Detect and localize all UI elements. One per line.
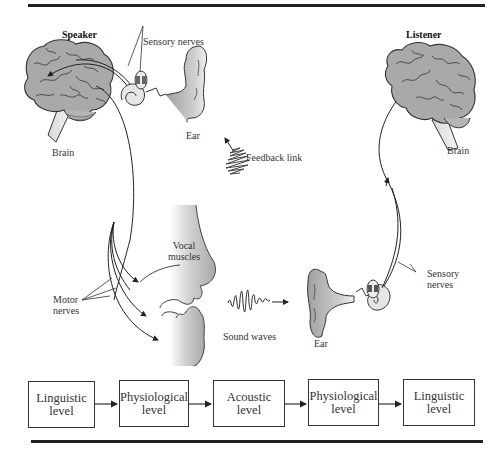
listener-label: Listener: [406, 29, 442, 40]
speaker-face-icon: [160, 205, 215, 366]
vocal-muscles-line2: muscles: [164, 251, 204, 262]
vocal-muscles-label: Vocal muscles: [164, 240, 204, 262]
level-box-physiological-speaker: Physiologicallevel: [119, 380, 189, 427]
listener-brain-label: Brain: [447, 145, 469, 156]
level-line2: level: [414, 403, 465, 416]
listener-sensory-nerves-line2: nerves: [427, 279, 459, 290]
level-line2: level: [120, 404, 188, 417]
listener-ear-label: Ear: [314, 338, 328, 349]
speaker-label: Speaker: [62, 29, 97, 40]
level-line1: Physiological: [120, 391, 188, 404]
level-box-acoustic: Acousticlevel: [213, 380, 285, 427]
level-box-physiological-listener: Physiologicallevel: [308, 379, 379, 426]
listener-sensory-nerves-line1: Sensory: [427, 268, 459, 279]
motor-nerves-label: Motor nerves: [53, 294, 79, 316]
level-line2: level: [227, 404, 271, 417]
level-line2: level: [309, 403, 377, 416]
motor-nerves-line2: nerves: [53, 305, 79, 316]
listener-sensory-nerves-label: Sensory nerves: [427, 268, 459, 290]
motor-nerves-line1: Motor: [53, 294, 79, 305]
speaker-sensory-nerves-label: Sensory nerves: [143, 36, 204, 47]
level-line1: Acoustic: [227, 391, 271, 404]
speaker-brain-icon: [25, 40, 114, 142]
level-line1: Linguistic: [36, 392, 87, 405]
sound-waves-label: Sound waves: [223, 331, 276, 342]
level-line2: level: [36, 405, 87, 418]
level-box-linguistic-speaker: Linguisticlevel: [28, 381, 95, 428]
level-box-linguistic-listener: Linguisticlevel: [403, 379, 475, 426]
speaker-ear-icon: [166, 46, 207, 122]
feedback-link-label: Feedback link: [246, 152, 302, 163]
speaker-brain-label: Brain: [52, 147, 74, 158]
speaker-ear-label: Ear: [186, 130, 200, 141]
level-line1: Physiological: [309, 390, 377, 403]
level-line1: Linguistic: [414, 390, 465, 403]
listener-ear-icon: [308, 269, 354, 337]
vocal-muscles-line1: Vocal: [164, 240, 204, 251]
speaker-cochlea-icon: [121, 71, 166, 105]
sound-wave-icon: [228, 290, 288, 312]
listener-brain-icon: [385, 43, 475, 150]
